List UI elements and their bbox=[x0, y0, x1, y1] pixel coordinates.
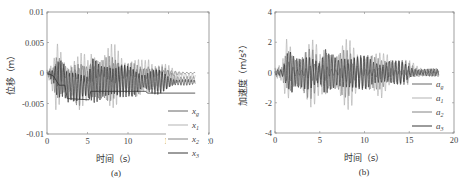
y-axis-title-b: 加速度（m/s²） bbox=[237, 40, 248, 105]
y-tick-label: -0.01 bbox=[26, 129, 44, 139]
x-tick-label: 10 bbox=[124, 136, 133, 146]
legend-a: xgx1x2x3 bbox=[166, 104, 208, 159]
y-axis-title-a: 位移（m） bbox=[5, 51, 16, 96]
x-tick-label: 0 bbox=[45, 136, 49, 146]
y-tick-label: 0 bbox=[268, 68, 272, 78]
x-tick-label: 10 bbox=[360, 135, 369, 145]
y-tick-label: 0.005 bbox=[25, 38, 44, 48]
caption-a: (a) bbox=[111, 168, 121, 178]
legend-b: aga1a2a3 bbox=[410, 77, 452, 132]
y-tick-label: 2 bbox=[268, 37, 272, 47]
y-tick-label: 0 bbox=[40, 68, 44, 78]
x-tick-label: 5 bbox=[85, 136, 89, 146]
caption-b: (b) bbox=[359, 167, 370, 177]
y-tick-label: -4 bbox=[265, 128, 273, 138]
y-tick-label: -0.005 bbox=[22, 99, 44, 109]
x-axis-title-a: 时间（s） bbox=[96, 153, 137, 164]
chart-a-svg: 051015200.010.0050-0.005-0.01 xgx1x2x3 时… bbox=[0, 0, 232, 186]
chart-panel-a: 051015200.010.0050-0.005-0.01 xgx1x2x3 时… bbox=[0, 0, 232, 186]
x-tick-label: 0 bbox=[273, 135, 277, 145]
y-tick-label: -2 bbox=[265, 98, 272, 108]
x-tick-label: 20 bbox=[450, 135, 459, 145]
x-tick-label: 15 bbox=[405, 135, 414, 145]
chart-panel-b: 05101520420-2-4 aga1a2a3 时间（s） (b) 加速度（m… bbox=[232, 0, 464, 186]
chart-b-svg: 05101520420-2-4 aga1a2a3 时间（s） (b) 加速度（m… bbox=[232, 0, 464, 186]
x-axis-title-b: 时间（s） bbox=[344, 152, 385, 163]
y-tick-label: 0.01 bbox=[29, 7, 44, 17]
y-tick-label: 4 bbox=[268, 7, 273, 17]
x-tick-label: 5 bbox=[318, 135, 322, 145]
